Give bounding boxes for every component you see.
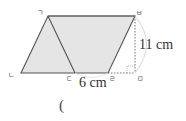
vertex-label-bottom-mid: ㄷ (66, 75, 72, 83)
vertex-label-bottom-right: ㄹ (109, 75, 115, 83)
parallelogram-shape (21, 16, 135, 73)
parallelogram-diagram: ㄱ ㅂ ㄴ ㄷ ㄹ ㅁ 11 cm 6 cm ( (0, 0, 186, 121)
vertex-label-bottom-left: ㄴ (8, 71, 14, 79)
vertex-label-top-left: ㄱ (37, 9, 43, 17)
measure-height-label: 11 cm (139, 37, 173, 52)
answer-blank-paren: ( (59, 97, 64, 114)
right-angle-marker (127, 66, 135, 73)
vertex-label-height-foot: ㅁ (137, 75, 143, 83)
vertex-label-top-right: ㅂ (136, 9, 142, 17)
measure-base-label: 6 cm (79, 75, 107, 90)
